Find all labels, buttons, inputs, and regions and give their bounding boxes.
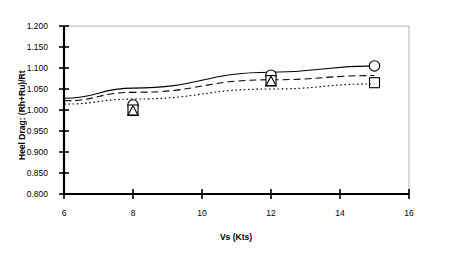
marker-circle xyxy=(369,61,379,71)
series-line-circle xyxy=(64,66,375,98)
plot-frame xyxy=(64,26,409,194)
series-line-square xyxy=(64,76,375,101)
plot-area xyxy=(0,0,472,259)
chart-figure: Heel Drag: (Rh+Ru)/Rt 1.200 1.150 1.100 … xyxy=(0,0,472,259)
marker-square xyxy=(370,78,380,88)
